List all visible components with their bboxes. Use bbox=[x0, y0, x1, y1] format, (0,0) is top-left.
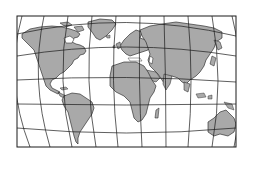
map-svg bbox=[0, 0, 264, 172]
world-map bbox=[0, 0, 264, 172]
new-zealand bbox=[236, 138, 244, 146]
indonesia bbox=[196, 93, 206, 98]
